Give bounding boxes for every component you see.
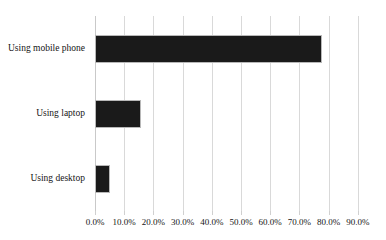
x-tick-label: 40.0% xyxy=(200,216,223,229)
value-axis: 0.0%10.0%20.0%30.0%40.0%50.0%60.0%70.0%8… xyxy=(95,216,372,234)
tick-mark xyxy=(358,211,359,215)
bar-using-mobile-phone[interactable] xyxy=(95,35,322,63)
x-tick-label: 70.0% xyxy=(288,216,311,229)
x-tick-label: 60.0% xyxy=(259,216,282,229)
x-tick-label: 0.0% xyxy=(86,216,105,229)
tick-mark xyxy=(153,211,154,215)
bar-using-desktop[interactable] xyxy=(95,165,110,193)
tick-mark xyxy=(241,211,242,215)
x-tick-label: 20.0% xyxy=(142,216,165,229)
x-tick-label: 10.0% xyxy=(113,216,136,229)
tick-mark xyxy=(212,211,213,215)
tick-mark xyxy=(329,211,330,215)
bar-chart: Using mobile phoneUsing laptopUsing desk… xyxy=(0,0,386,240)
x-tick-label: 50.0% xyxy=(229,216,252,229)
category-label-using-laptop: Using laptop xyxy=(36,108,85,119)
category-axis: Using mobile phoneUsing laptopUsing desk… xyxy=(0,16,90,211)
tick-mark xyxy=(270,211,271,215)
x-tick-label: 80.0% xyxy=(317,216,340,229)
category-label-using-desktop: Using desktop xyxy=(30,173,85,184)
tick-mark xyxy=(124,211,125,215)
plot-area xyxy=(95,16,372,211)
bar-using-laptop[interactable] xyxy=(95,100,141,128)
bar-series xyxy=(95,16,372,211)
tick-mark xyxy=(183,211,184,215)
x-tick-label: 90.0% xyxy=(346,216,369,229)
tick-mark xyxy=(95,211,96,215)
tick-mark xyxy=(299,211,300,215)
category-label-using-mobile-phone: Using mobile phone xyxy=(8,43,85,54)
x-tick-label: 30.0% xyxy=(171,216,194,229)
